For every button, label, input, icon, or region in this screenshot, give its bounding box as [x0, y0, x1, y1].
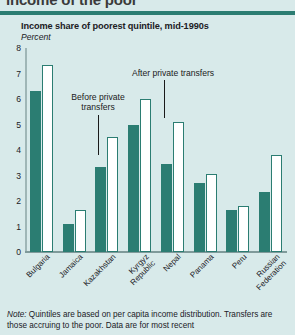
y-axis-tick-5: 5 — [16, 120, 21, 130]
bar-before-transfers — [95, 167, 106, 252]
bar-after-transfers — [75, 210, 86, 252]
x-axis-label: Nepal — [163, 253, 184, 274]
y-axis-tick-4: 4 — [16, 145, 21, 155]
bar-before-transfers — [226, 210, 237, 252]
bar-group — [128, 48, 151, 252]
y-axis-tick-1: 1 — [16, 222, 21, 232]
bar-before-transfers — [161, 164, 172, 252]
annotation-leader-line-after — [164, 80, 165, 118]
header-rule — [0, 11, 295, 15]
bar-group — [194, 48, 217, 252]
bar-group — [63, 48, 86, 252]
x-axis-labels: BulgariaJamaicaKazakhstanKyrgyz Republic… — [25, 253, 287, 311]
y-axis-tick-8: 8 — [16, 43, 21, 53]
bar-before-transfers — [128, 125, 139, 253]
bar-after-transfers — [238, 206, 249, 252]
bar-after-transfers — [140, 99, 151, 252]
y-axis-tick-2: 2 — [16, 196, 21, 206]
chart-note: Note: Quintiles are based on per capita … — [7, 310, 293, 332]
bar-before-transfers — [259, 192, 270, 252]
bar-group — [30, 48, 53, 252]
bar-group — [161, 48, 184, 252]
y-axis-tick-7: 7 — [16, 69, 21, 79]
annotation-leader-line-before — [98, 115, 99, 155]
bar-group — [226, 48, 249, 252]
x-axis-label: Bulgaria — [26, 253, 53, 280]
x-axis-label: Kazakhstan — [82, 253, 118, 289]
x-axis-label: Kyrgyz Republic — [123, 253, 157, 287]
chart-title: Income share of poorest quintile, mid-19… — [21, 21, 209, 31]
clipped-page-heading: income of the poor — [6, 0, 137, 8]
x-axis-label: Peru — [231, 253, 249, 271]
y-axis-tick-0: 0 — [16, 247, 21, 257]
bar-groups — [25, 48, 287, 252]
note-label: Note: — [7, 310, 27, 319]
bar-after-transfers — [206, 174, 217, 252]
bar-after-transfers — [173, 122, 184, 252]
note-text: Quintiles are based on per capita income… — [7, 310, 272, 330]
bar-after-transfers — [271, 155, 282, 252]
bar-before-transfers — [63, 224, 74, 252]
annotation-before-private-transfers: Before private transfers — [62, 92, 134, 112]
bar-before-transfers — [30, 91, 41, 252]
chart-subtitle: Percent — [21, 32, 51, 42]
x-axis-label: Russian Federation — [249, 253, 288, 292]
y-axis-tick-6: 6 — [16, 94, 21, 104]
plot-area: 876543210 — [25, 48, 287, 252]
bar-group — [259, 48, 282, 252]
x-axis-label: Jamaica — [58, 253, 85, 280]
bar-after-transfers — [42, 65, 53, 252]
bar-before-transfers — [194, 183, 205, 252]
x-axis-label: Panama — [189, 253, 216, 280]
y-axis-tick-3: 3 — [16, 171, 21, 181]
bar-after-transfers — [107, 137, 118, 252]
annotation-after-private-transfers: After private transfers — [130, 68, 216, 78]
